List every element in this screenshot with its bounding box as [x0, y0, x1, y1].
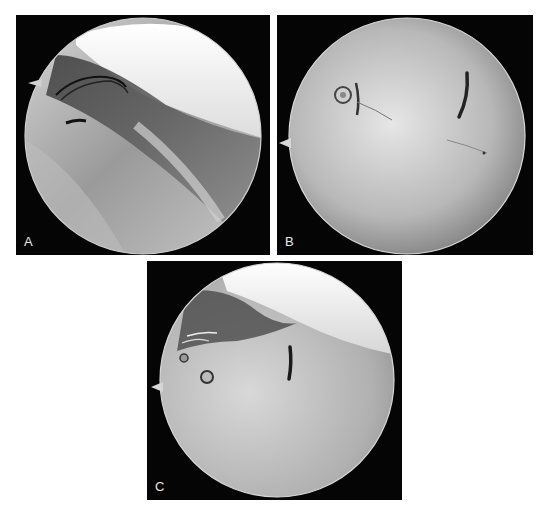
arthroscopic-image-c — [147, 261, 402, 500]
scope-pointer-icon — [28, 79, 42, 87]
arthroscopic-image-a — [16, 15, 270, 255]
arthroscopic-image-b — [277, 15, 533, 255]
figure-panel-c: C — [147, 261, 402, 500]
figure-panel-a: A — [16, 15, 270, 255]
figure-panel-b: B — [277, 15, 533, 255]
panel-label-a: A — [24, 235, 33, 248]
panel-label-b: B — [285, 235, 294, 248]
scope-pointer-icon — [279, 138, 291, 148]
panel-label-c: C — [155, 480, 164, 493]
scope-pointer-icon — [151, 382, 163, 392]
